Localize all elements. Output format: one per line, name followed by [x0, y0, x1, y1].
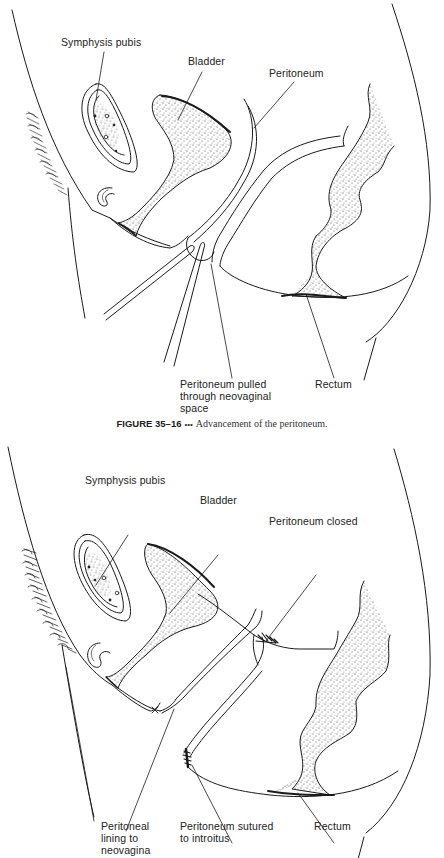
caption-text: Advancement of the peritoneum. [196, 418, 328, 429]
label-peritoneum: Peritoneum [269, 67, 324, 79]
label-peritoneum-pulled-line1: Peritoneum pulled [180, 378, 266, 390]
leader-lines [96, 52, 334, 378]
label-peritoneum-closed: Peritoneum closed [269, 515, 358, 527]
forceps-instrument [104, 242, 205, 366]
peritoneum-closed [198, 594, 338, 667]
label-rectum: Rectum [314, 820, 351, 832]
figure-caption-35-17-cropped [0, 854, 444, 858]
symphysis-pubis-shape [82, 84, 137, 172]
label-bladder: Bladder [200, 494, 237, 506]
figure-caption-35-16: FIGURE 35–16•••Advancement of the perito… [0, 418, 444, 429]
label-peritoneal-lining-line1: Peritoneal [101, 820, 149, 832]
figure-number: FIGURE 35–16 [117, 418, 182, 429]
clitoris-shape [98, 188, 114, 206]
caption-separator-icon: ••• [184, 420, 192, 429]
pulled-peritoneum-loop [186, 238, 214, 261]
bladder-shape [118, 95, 231, 236]
rectum-shape [268, 581, 390, 795]
pubic-hair-icon [22, 549, 76, 653]
label-peritoneum-sutured-line2: to introitus [180, 832, 230, 844]
label-peritoneum-sutured-line1: Peritoneum sutured [180, 820, 273, 832]
label-symphysis-pubis: Symphysis pubis [61, 36, 141, 48]
label-peritoneum-pulled-line2: through neovaginal [180, 390, 271, 402]
label-symphysis-pubis: Symphysis pubis [85, 474, 165, 486]
label-bladder: Bladder [188, 55, 225, 67]
anatomy-illustration-closure [0, 445, 444, 858]
bladder-shape [106, 544, 218, 688]
rectum-shape [282, 84, 394, 298]
label-peritoneal-lining-line2: lining to [101, 832, 138, 844]
figure-35-16: Symphysis pubis Bladder Peritoneum Perit… [0, 0, 444, 412]
label-peritoneum-pulled-line3: space [180, 402, 209, 414]
peritoneum-posterior [212, 126, 348, 266]
figure-35-17: Symphysis pubis Bladder Peritoneum close… [0, 445, 444, 858]
symphysis-pubis-shape [74, 534, 131, 621]
label-rectum: Rectum [315, 378, 352, 390]
peritoneum-to-introitus [184, 667, 262, 757]
